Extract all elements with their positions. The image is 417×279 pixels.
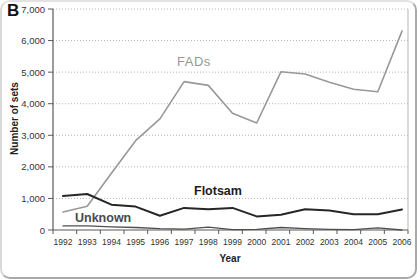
svg-text:1,000: 1,000 bbox=[21, 193, 45, 204]
chart-canvas: 01,0002,0003,0004,0005,0006,0007,0001992… bbox=[0, 0, 417, 279]
x-axis-title: Year bbox=[130, 253, 330, 264]
svg-text:1995: 1995 bbox=[126, 237, 145, 247]
svg-text:1997: 1997 bbox=[175, 237, 194, 247]
series-line-unknown bbox=[63, 226, 402, 230]
svg-text:2005: 2005 bbox=[368, 237, 387, 247]
svg-text:6,000: 6,000 bbox=[21, 35, 45, 46]
svg-text:2004: 2004 bbox=[344, 237, 363, 247]
svg-text:1994: 1994 bbox=[102, 237, 121, 247]
svg-text:5,000: 5,000 bbox=[21, 67, 45, 78]
svg-text:2003: 2003 bbox=[320, 237, 339, 247]
series-label-fads: FADs bbox=[177, 54, 211, 69]
svg-text:0: 0 bbox=[40, 225, 45, 236]
svg-text:4,000: 4,000 bbox=[21, 98, 45, 109]
svg-text:2006: 2006 bbox=[393, 237, 412, 247]
svg-text:1999: 1999 bbox=[223, 237, 242, 247]
y-axis-title: Number of sets bbox=[9, 19, 20, 219]
svg-text:1992: 1992 bbox=[54, 237, 73, 247]
x-tick-labels: 1992199319941995199619971998199920002001… bbox=[54, 237, 412, 247]
svg-text:1996: 1996 bbox=[150, 237, 169, 247]
svg-text:3,000: 3,000 bbox=[21, 130, 45, 141]
svg-text:1998: 1998 bbox=[199, 237, 218, 247]
svg-text:1993: 1993 bbox=[78, 237, 97, 247]
series-label-flotsam: Flotsam bbox=[194, 184, 242, 198]
figure-panel: 01,0002,0003,0004,0005,0006,0007,0001992… bbox=[0, 0, 417, 279]
svg-text:2,000: 2,000 bbox=[21, 161, 45, 172]
svg-text:2001: 2001 bbox=[271, 237, 290, 247]
svg-text:2000: 2000 bbox=[247, 237, 266, 247]
y-tick-labels: 01,0002,0003,0004,0005,0006,0007,000 bbox=[21, 4, 45, 236]
gridlines bbox=[53, 9, 408, 198]
svg-text:2002: 2002 bbox=[296, 237, 315, 247]
series-label-unknown: Unknown bbox=[75, 211, 131, 225]
svg-text:7,000: 7,000 bbox=[21, 4, 45, 15]
